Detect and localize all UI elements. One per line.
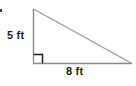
vertical-leg-label: 5 ft	[7, 30, 24, 41]
horizontal-leg-label: 8 ft	[66, 66, 83, 77]
right-angle-marker-icon	[34, 55, 43, 64]
triangle-figure: 5 ft 8 ft	[0, 0, 136, 86]
hypotenuse-line	[34, 9, 133, 64]
